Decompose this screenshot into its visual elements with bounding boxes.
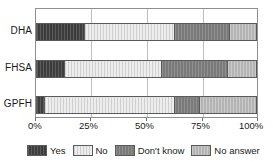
legend-label-no: No — [96, 145, 108, 156]
bar-segment-fhsa-no-answer — [228, 60, 257, 78]
bar-segment-gpfh-no-answer — [200, 96, 257, 114]
legend-item-no: No — [73, 145, 108, 156]
bar-segment-dha-no — [85, 23, 176, 41]
legend-swatch-no-icon — [73, 145, 93, 156]
legend-swatch-dont-know-icon — [115, 145, 135, 156]
legend-label-no-answer: No answer — [214, 145, 259, 156]
y-axis-label-gpfh: GPFH — [0, 98, 32, 109]
stacked-bar-chart: DHA FHSA GPFH 0 — [0, 0, 273, 165]
bar-fhsa — [36, 60, 257, 78]
bar-segment-fhsa-no — [65, 60, 162, 78]
x-axis-tick-50: 50% — [135, 120, 154, 131]
legend-label-yes: Yes — [50, 145, 66, 156]
legend-swatch-yes-icon — [27, 145, 47, 156]
bar-segment-gpfh-no — [45, 96, 175, 114]
bar-gpfh — [36, 96, 257, 114]
plot-area — [35, 8, 258, 118]
bar-segment-fhsa-yes — [36, 60, 65, 78]
x-axis-tick-100: 100% — [239, 120, 263, 131]
bar-dha — [36, 23, 257, 41]
y-axis-label-fhsa: FHSA — [0, 62, 32, 73]
bar-segment-dha-dont-know — [175, 23, 230, 41]
legend-label-dont-know: Don't know — [138, 145, 185, 156]
legend-item-dont-know: Don't know — [115, 145, 185, 156]
legend-item-yes: Yes — [27, 145, 66, 156]
bar-segment-gpfh-dont-know — [175, 96, 199, 114]
x-axis-tick-0: 0% — [28, 120, 42, 131]
x-axis-tick-75: 75% — [191, 120, 210, 131]
bar-segment-gpfh-yes — [36, 96, 45, 114]
y-axis-label-dha: DHA — [0, 25, 32, 36]
legend-item-no-answer: No answer — [191, 145, 259, 156]
bar-segment-fhsa-dont-know — [162, 60, 228, 78]
bar-segment-dha-no-answer — [230, 23, 257, 41]
x-axis-tick-25: 25% — [79, 120, 98, 131]
chart-legend: Yes No Don't know No answer — [27, 142, 267, 158]
bar-segment-dha-yes — [36, 23, 85, 41]
legend-swatch-no-answer-icon — [191, 145, 211, 156]
